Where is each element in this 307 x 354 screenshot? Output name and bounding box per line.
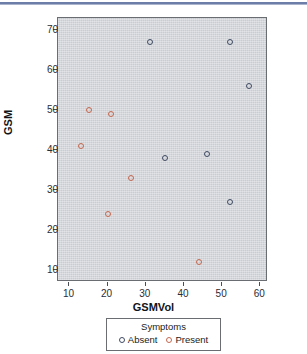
y-tick-label: 40 <box>47 144 58 155</box>
x-tick-label: 20 <box>101 288 112 299</box>
data-point-present <box>196 259 202 265</box>
legend-entries: AbsentPresent <box>107 334 220 346</box>
x-tick-mark <box>183 282 184 286</box>
y-tick-label: 60 <box>47 64 58 75</box>
x-tick-mark <box>259 282 260 286</box>
y-axis-label: GSM <box>2 110 14 135</box>
legend-entry-present[interactable]: Present <box>166 334 208 346</box>
data-point-absent <box>246 83 252 89</box>
data-point-absent <box>147 39 153 45</box>
data-point-absent <box>227 39 233 45</box>
data-point-present <box>105 211 111 217</box>
x-axis-label: GSMVol <box>0 301 307 313</box>
legend-entry-label: Absent <box>128 334 158 346</box>
legend-entry-label: Present <box>175 334 208 346</box>
x-tick-label: 10 <box>63 288 74 299</box>
data-point-absent <box>227 199 233 205</box>
x-tick-mark <box>68 282 69 286</box>
x-tick-label: 60 <box>254 288 265 299</box>
y-tick-label: 50 <box>47 104 58 115</box>
scatter-plot-figure: 10203040506070 102030405060 GSM GSMVol S… <box>0 0 307 354</box>
x-tick-mark <box>145 282 146 286</box>
x-tick-label: 40 <box>177 288 188 299</box>
data-point-present <box>108 111 114 117</box>
legend: Symptoms AbsentPresent <box>106 318 221 351</box>
y-tick-label: 70 <box>47 24 58 35</box>
panel-texture <box>58 18 266 280</box>
legend-entry-absent[interactable]: Absent <box>119 334 158 346</box>
data-point-present <box>128 175 134 181</box>
data-point-absent <box>204 151 210 157</box>
data-point-absent <box>162 155 168 161</box>
legend-marker-icon <box>119 337 125 343</box>
legend-marker-icon <box>166 337 172 343</box>
data-point-present <box>86 107 92 113</box>
x-tick-mark <box>221 282 222 286</box>
y-tick-label: 30 <box>47 184 58 195</box>
y-tick-label: 10 <box>47 264 58 275</box>
x-tick-label: 30 <box>139 288 150 299</box>
legend-title: Symptoms <box>107 321 220 333</box>
data-point-present <box>78 143 84 149</box>
plot-panel <box>57 17 267 281</box>
x-tick-mark <box>107 282 108 286</box>
y-tick-label: 20 <box>47 224 58 235</box>
x-tick-label: 50 <box>216 288 227 299</box>
